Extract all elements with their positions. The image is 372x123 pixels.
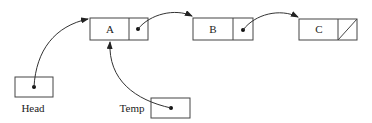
node-a-label: A <box>106 23 114 35</box>
temp-pointer: Temp <box>120 98 190 118</box>
linked-list-diagram: A B C Head Temp <box>0 0 372 123</box>
head-label: Head <box>21 102 45 114</box>
temp-label: Temp <box>120 102 145 114</box>
node-c-label: C <box>315 23 322 35</box>
node-c-box <box>299 19 357 40</box>
node-b-label: B <box>209 23 216 35</box>
node-a: A <box>90 18 148 40</box>
node-c: C <box>299 19 357 40</box>
